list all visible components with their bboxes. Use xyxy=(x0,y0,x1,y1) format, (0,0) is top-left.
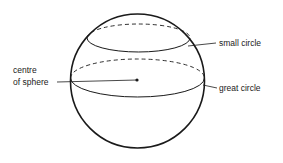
great-circle-leader-line xyxy=(203,85,217,88)
small-circle-front xyxy=(87,38,190,52)
sphere-diagram: centre of sphere small circle great circ… xyxy=(0,0,283,163)
small-circle-label: small circle xyxy=(219,38,261,48)
centre-label-line1: centre xyxy=(13,65,37,75)
centre-label-line2: of sphere xyxy=(13,77,49,87)
centre-leader-line xyxy=(57,80,137,82)
great-circle-label: great circle xyxy=(219,83,261,93)
great-circle-back xyxy=(71,59,205,78)
